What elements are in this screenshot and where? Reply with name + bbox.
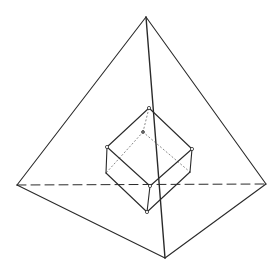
cube-vertex-marker <box>142 131 145 134</box>
cube-edge <box>106 147 107 173</box>
cube-edge <box>190 149 192 172</box>
cube-visible-edges <box>106 108 192 212</box>
cube-edge <box>147 172 190 212</box>
cube-edge <box>107 108 149 147</box>
tetrahedron-visible-edges <box>17 17 266 258</box>
cube-edge <box>106 173 147 212</box>
cube-vertex-markers <box>105 106 193 213</box>
cube-vertex-marker <box>148 184 151 187</box>
cube-hidden-edge <box>143 132 190 172</box>
cube-vertex-marker <box>145 210 148 213</box>
tetrahedron-cube-figure <box>0 0 279 274</box>
tetrahedron-edge <box>146 17 266 184</box>
cube-vertex-marker <box>147 106 150 109</box>
tetrahedron-edge <box>17 17 146 185</box>
cube-edge <box>147 186 150 212</box>
cube-vertex-marker <box>190 147 193 150</box>
tetrahedron-edge <box>165 184 266 258</box>
cube-hidden-edge <box>106 132 143 173</box>
cube-hidden-edge <box>143 108 149 132</box>
diagram-canvas <box>0 0 279 274</box>
cube-vertex-marker <box>105 145 108 148</box>
tetrahedron-edge <box>17 185 165 258</box>
tetrahedron-hidden-edges <box>17 184 266 185</box>
tetrahedron-hidden-edge <box>17 184 266 185</box>
cube-hidden-edges <box>106 108 190 173</box>
